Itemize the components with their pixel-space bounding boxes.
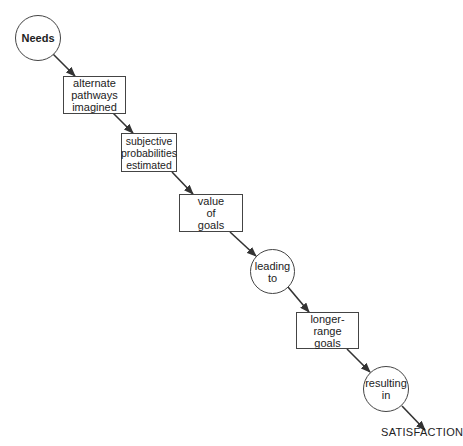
node-leading-to: leading to [250,249,295,294]
node-resulting-in: resulting in [363,366,409,412]
node-leading-to-label: leading to [255,260,290,284]
node-alternate-pathways: alternate pathways imagined [63,76,126,114]
arrow-value-of-goals-to-leading-to [230,232,256,256]
node-longer-range-goals: longer-range goals [296,312,359,349]
arrow-subjective-probabilities-to-value-of-goals [172,172,193,194]
node-resulting-in-label: resulting in [365,377,407,401]
terminal-satisfaction: SATISFACTION [381,426,463,438]
arrow-leading-to-to-longer-range-goals [288,287,309,312]
node-value-of-goals-label: value of goals [198,195,224,231]
node-needs-label: Needs [21,32,54,44]
arrow-needs-to-alternate-pathways [53,54,75,76]
node-alternate-pathways-label: alternate pathways imagined [71,77,117,113]
arrow-alternate-pathways-to-subjective-probabilities [113,113,133,133]
node-needs: Needs [15,15,61,61]
node-subjective-probabilities-label: subjective probabilities estimated [121,135,177,171]
node-longer-range-goals-label: longer-range goals [297,313,358,349]
node-subjective-probabilities: subjective probabilities estimated [121,133,177,172]
arrow-longer-range-goals-to-resulting-in [347,349,370,372]
node-value-of-goals: value of goals [179,194,243,232]
